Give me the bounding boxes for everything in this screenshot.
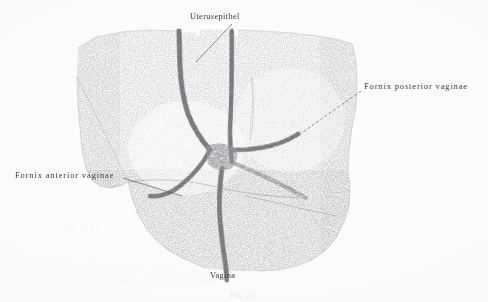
- label-fornix-posterior-vaginae: Fornix posterior vaginae: [364, 83, 468, 91]
- label-fornix-anterior-vaginae: Fornix anterior vaginae: [15, 172, 114, 180]
- label-vagina: Vagina: [210, 272, 235, 280]
- histology-figure-plate: VI VII sind by die around eine der Wandf…: [0, 0, 488, 302]
- figure-caption: Fig. 251: [0, 291, 488, 299]
- label-uterusepithel: Uterusepithel: [190, 13, 240, 21]
- specimen-illustration: [0, 0, 488, 302]
- specimen-svg: [0, 0, 488, 302]
